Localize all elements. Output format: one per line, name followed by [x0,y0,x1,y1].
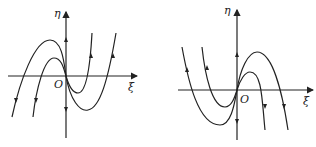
left-panel [8,12,137,138]
xi-label: ξ [128,81,135,94]
trajectory-inner [202,47,265,130]
right-panel [178,10,313,140]
eta-label: η [224,4,231,17]
arrow-up-icon [64,37,68,42]
trajectory-outer [182,47,288,130]
eta-label: η [54,7,61,20]
trajectory-inner [33,33,92,117]
arrow-up-icon [205,65,209,70]
xi-label: ξ [303,95,310,108]
origin-label: O [54,78,63,91]
arrow-up-icon [235,52,239,57]
arrow-down-icon [14,98,18,103]
phase-portrait-figure: η ξ O η ξ O [0,0,316,147]
trajectory-outer [12,33,116,117]
arrow-down-icon [235,119,239,124]
origin-label: O [240,93,249,106]
arrow-down-icon [64,107,68,112]
arrow-down-icon [282,104,286,109]
arrow-up-icon [89,53,93,58]
